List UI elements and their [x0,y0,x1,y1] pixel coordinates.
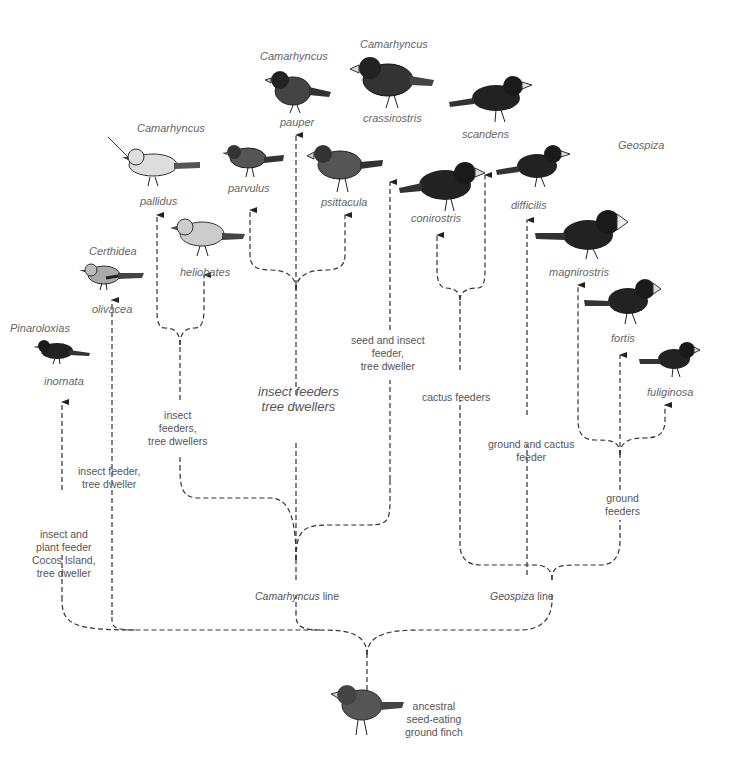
bird-pallidus-icon [108,137,203,189]
species-scandens: scandens [462,128,509,141]
genus-geospiza: Geospiza [618,139,664,152]
genus-camarhyncus-pallidus: Camarhyncus [137,122,205,135]
bird-conirostris-icon [397,155,485,215]
label-seed-insect-feeder: seed and insect feeder, tree dweller [351,334,425,373]
species-heliobates: heliobates [180,266,230,279]
bird-olivacea-icon [78,260,146,292]
bird-psittacula-icon [305,140,385,195]
bird-difficilis-icon [495,142,570,190]
species-parvulus: parvulus [228,182,270,195]
label-ancestral-ground-finch: ancestral seed-eating ground finch [405,700,463,739]
label-geospiza-line: Geospiza line [490,590,554,603]
bird-parvulus-icon [220,140,285,180]
bird-magnirostris-icon [533,205,628,263]
bird-fuliginosa-icon [638,340,700,380]
genus-pinaroloxias: Pinaroloxias [10,322,70,335]
species-fuliginosa: fuliginosa [647,386,693,399]
label-cocos-island: insect and plant feeder Cocos Island, tr… [32,528,96,580]
bird-heliobates-icon [167,214,245,258]
species-difficilis: difficilis [511,199,546,212]
bird-scandens-icon [448,72,533,127]
species-olivacea: olivacea [92,303,132,316]
species-crassirostris: crassirostris [363,112,422,125]
label-cactus-feeders: cactus feeders [422,391,490,404]
label-insect-feeders-tree-dwellers-main: insect feeders tree dwellers [258,384,339,414]
species-inornata: inornata [44,375,84,388]
label-insect-feeder-tree-dweller: insect feeder, tree dweller [78,465,140,491]
bird-inornata-icon [33,337,91,367]
label-camarhyncus-line: Camarhyncus line [255,590,339,603]
species-magnirostris: magnirostris [549,266,609,279]
genus-certhidea: Certhidea [89,245,137,258]
species-psittacula: psittacula [321,196,367,209]
bird-ancestor-icon [330,680,405,740]
label-ground-cactus-feeder: ground and cactus feeder [488,438,574,464]
genus-camarhyncus-crassirostris: Camarhyncus [360,38,428,51]
species-conirostris: conirostris [411,212,461,225]
label-ground-feeders: ground feeders [605,492,640,518]
bird-crassirostris-icon [348,52,436,112]
bird-fortis-icon [583,275,661,327]
species-pallidus: pallidus [140,195,177,208]
species-pauper: pauper [280,116,314,129]
bird-pauper-icon [263,65,333,115]
species-fortis: fortis [611,332,635,345]
genus-camarhyncus-pauper: Camarhyncus [260,50,328,63]
label-insect-feeders: insect feeders, tree dwellers [148,409,208,448]
